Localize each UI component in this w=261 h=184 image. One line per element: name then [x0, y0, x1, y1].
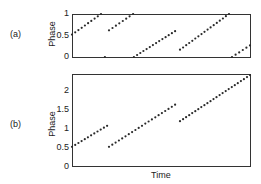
data-point — [210, 26, 212, 28]
data-point — [249, 74, 251, 76]
data-point — [237, 82, 239, 84]
data-point — [243, 78, 245, 80]
data-point — [158, 114, 160, 116]
data-point — [71, 34, 73, 36]
data-point — [240, 80, 242, 82]
data-point — [77, 29, 79, 31]
data-point — [194, 37, 196, 39]
data-point — [200, 33, 202, 35]
data-point — [152, 44, 154, 46]
data-point — [185, 44, 187, 46]
data-point — [179, 49, 181, 51]
data-point — [182, 118, 184, 120]
data-point — [151, 118, 153, 120]
data-point — [97, 15, 99, 17]
data-point — [138, 127, 140, 129]
data-point — [222, 17, 224, 19]
data-point — [124, 135, 126, 137]
data-point — [200, 106, 202, 108]
data-point — [215, 96, 217, 98]
data-point — [74, 144, 76, 146]
data-point — [84, 24, 86, 26]
data-point — [94, 18, 96, 20]
data-point — [81, 27, 83, 29]
data-point — [100, 129, 102, 131]
data-point — [174, 104, 176, 106]
data-point — [122, 20, 124, 22]
data-point — [207, 29, 209, 31]
data-point — [212, 98, 214, 100]
scatter-markers — [0, 0, 261, 184]
data-point — [228, 88, 230, 90]
data-point — [87, 136, 89, 138]
data-point — [167, 108, 169, 110]
data-point — [103, 127, 105, 129]
data-point — [164, 110, 166, 112]
data-point — [188, 114, 190, 116]
data-point — [213, 24, 215, 26]
data-point — [90, 20, 92, 22]
data-point — [149, 46, 151, 48]
data-point — [128, 133, 130, 135]
data-point — [121, 137, 123, 139]
data-point — [129, 15, 131, 17]
data-point — [185, 116, 187, 118]
data-point — [111, 144, 113, 146]
data-point — [131, 131, 133, 133]
data-point — [203, 31, 205, 33]
data-point — [108, 29, 110, 31]
data-point — [74, 31, 76, 33]
data-point — [235, 54, 237, 56]
data-point — [209, 100, 211, 102]
data-point — [191, 112, 193, 114]
data-point — [219, 20, 221, 22]
data-point — [146, 48, 148, 50]
data-point — [171, 32, 173, 34]
data-point — [106, 125, 108, 127]
data-point — [216, 22, 218, 24]
data-point — [225, 15, 227, 17]
data-point — [168, 34, 170, 36]
data-point — [191, 40, 193, 42]
data-point — [118, 139, 120, 141]
data-point — [132, 13, 134, 15]
data-point — [234, 84, 236, 86]
data-point — [242, 49, 244, 51]
data-point — [238, 51, 240, 53]
data-point — [194, 110, 196, 112]
data-point — [219, 94, 221, 96]
data-point — [90, 134, 92, 136]
data-point — [197, 35, 199, 37]
data-point — [100, 13, 102, 15]
data-point — [231, 56, 233, 58]
data-point — [104, 56, 106, 58]
data-point — [133, 56, 135, 58]
data-point — [158, 40, 160, 42]
data-point — [231, 86, 233, 88]
data-point — [249, 44, 251, 46]
data-point — [93, 132, 95, 134]
data-point — [111, 27, 113, 29]
data-point — [203, 104, 205, 106]
data-point — [188, 42, 190, 44]
data-point — [87, 22, 89, 24]
data-point — [174, 30, 176, 32]
data-point — [134, 129, 136, 131]
data-point — [222, 92, 224, 94]
data-point — [182, 46, 184, 48]
data-point — [154, 116, 156, 118]
data-point — [141, 125, 143, 127]
data-point — [77, 142, 79, 144]
data-point — [225, 90, 227, 92]
data-point — [71, 146, 73, 148]
data-point — [118, 22, 120, 24]
data-point — [81, 140, 83, 142]
data-point — [142, 50, 144, 52]
data-point — [246, 76, 248, 78]
data-point — [115, 25, 117, 27]
data-point — [206, 102, 208, 104]
data-point — [139, 52, 141, 54]
data-point — [84, 138, 86, 140]
data-point — [165, 36, 167, 38]
data-point — [179, 120, 181, 122]
